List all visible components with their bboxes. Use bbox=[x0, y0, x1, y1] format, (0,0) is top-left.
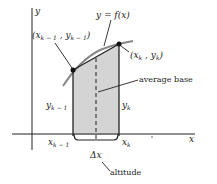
leader-curve-label bbox=[104, 20, 111, 46]
delta-x-label: Δx bbox=[89, 150, 102, 160]
left-height-label: yk − 1 bbox=[45, 100, 67, 111]
left-point-label: (xk − 1 , yk − 1) bbox=[32, 30, 91, 41]
point-right bbox=[117, 42, 122, 47]
curve-label: y = f(x) bbox=[95, 10, 130, 20]
y-axis-label: y bbox=[34, 6, 41, 16]
leader-altitude bbox=[102, 162, 110, 171]
x-axis-label: x bbox=[189, 134, 194, 144]
trapezoid-rule-diagram: y x y = f(x) (xk − 1 , yk − 1) (xk , yk)… bbox=[0, 0, 217, 184]
right-point-label: (xk , yk) bbox=[130, 50, 164, 61]
leader-left-point bbox=[55, 43, 72, 68]
leader-right-point bbox=[121, 46, 129, 52]
tick-label-left: xk − 1 bbox=[48, 137, 69, 148]
right-height-label: yk bbox=[121, 100, 131, 111]
average-base-label: average base bbox=[139, 75, 193, 84]
tick-label-right: xk bbox=[122, 137, 131, 148]
axis-mark bbox=[151, 136, 153, 138]
point-left bbox=[71, 68, 76, 73]
altitude-label: altitude bbox=[110, 168, 142, 177]
